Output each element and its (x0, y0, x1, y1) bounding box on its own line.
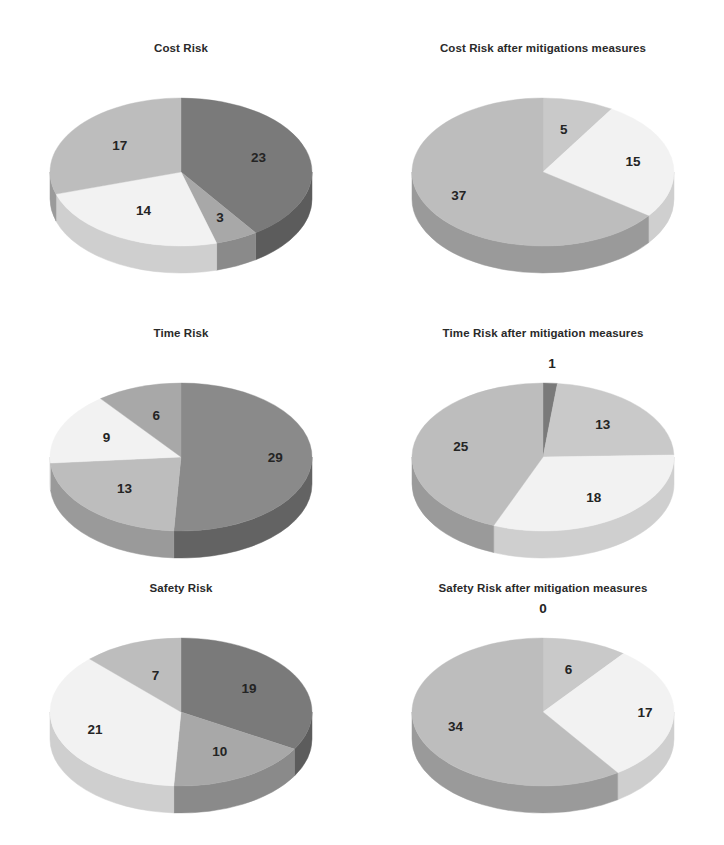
pie-slice-label: 37 (451, 188, 466, 203)
pie-svg-time-risk: 291396 (0, 345, 362, 595)
pie-slice-label: 10 (212, 744, 227, 759)
chart-cost-risk: Cost Risk2331417 (0, 30, 362, 312)
pie-slice-label: 19 (242, 681, 257, 696)
pie-svg-safety-risk: 1910217 (0, 600, 362, 845)
chart-title-cost-risk: Cost Risk (0, 42, 362, 54)
chart-safety-risk-after: Safety Risk after mitigation measures061… (362, 570, 724, 845)
pie-slice-label: 1 (548, 356, 556, 371)
pie-chart-sheet: Cost Risk2331417Cost Risk after mitigati… (0, 0, 724, 845)
pie-svg-time-risk-after: 1131825 (362, 345, 724, 595)
pie-slice-label: 34 (448, 719, 464, 734)
pie-top-faces (412, 98, 674, 246)
pie-slice-label: 0 (539, 601, 547, 616)
pie-svg-safety-risk-after: 061734 (362, 600, 724, 845)
pie-slice-label: 9 (103, 430, 111, 445)
pie-top-faces (412, 638, 674, 786)
pie-slice-label: 18 (586, 490, 602, 505)
pie-slice-label: 17 (112, 138, 127, 153)
pie-svg-cost-risk-after: 51537 (362, 60, 724, 310)
chart-title-safety-risk: Safety Risk (0, 582, 362, 594)
chart-title-time-risk: Time Risk (0, 327, 362, 339)
pie-slice-label: 25 (453, 439, 469, 454)
pie-top-faces (50, 98, 312, 246)
pie-slice-label: 6 (565, 662, 573, 677)
pie-slice-label: 29 (268, 450, 283, 465)
chart-time-risk-after: Time Risk after mitigation measures11318… (362, 315, 724, 597)
chart-title-safety-risk-after: Safety Risk after mitigation measures (362, 582, 724, 594)
pie-slice-label: 5 (560, 122, 568, 137)
pie-stage-cost-risk-after: 51537 (362, 60, 724, 310)
pie-slice-label: 23 (251, 150, 267, 165)
pie-slice-label: 13 (595, 417, 611, 432)
pie-stage-time-risk: 291396 (0, 345, 362, 595)
pie-slice-label: 15 (625, 154, 641, 169)
chart-title-cost-risk-after: Cost Risk after mitigations measures (362, 42, 724, 54)
pie-stage-safety-risk: 1910217 (0, 600, 362, 845)
pie-slice-label: 3 (216, 210, 224, 225)
chart-cost-risk-after: Cost Risk after mitigations measures5153… (362, 30, 724, 312)
pie-stage-time-risk-after: 1131825 (362, 345, 724, 595)
pie-stage-cost-risk: 2331417 (0, 60, 362, 310)
chart-title-time-risk-after: Time Risk after mitigation measures (362, 327, 724, 339)
chart-safety-risk: Safety Risk1910217 (0, 570, 362, 845)
chart-time-risk: Time Risk291396 (0, 315, 362, 597)
pie-svg-cost-risk: 2331417 (0, 60, 362, 310)
pie-slice-label: 7 (152, 668, 160, 683)
pie-stage-safety-risk-after: 061734 (362, 600, 724, 845)
pie-top-faces (50, 638, 312, 786)
pie-slice-label: 6 (153, 408, 161, 423)
pie-slice-label: 17 (638, 705, 653, 720)
pie-slice-label: 13 (117, 481, 133, 496)
pie-slice-label: 14 (136, 203, 152, 218)
pie-slice-label: 21 (88, 722, 104, 737)
pie-top-faces (412, 383, 674, 531)
